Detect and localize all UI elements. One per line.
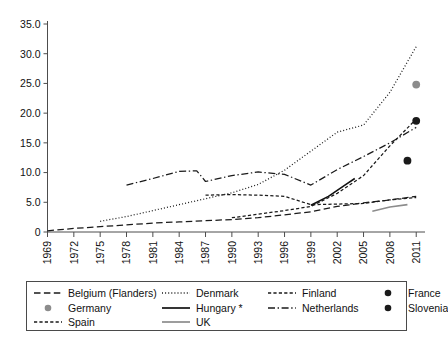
black-dot-marker-icon [373, 302, 403, 314]
legend-entry-france[interactable]: France [373, 286, 448, 301]
legend-entry-finland[interactable]: Finland [267, 286, 373, 301]
legend-label: UK [196, 316, 211, 328]
legend-label: Germany [68, 302, 111, 314]
solid-gray-line-icon [161, 316, 191, 328]
series-denmark [100, 47, 416, 222]
dash-dot-line-icon [267, 302, 297, 314]
short-dash-line-icon [33, 316, 63, 328]
data-point-marker [404, 157, 412, 165]
series-germany [412, 81, 420, 89]
x-tick-label: 1978 [120, 241, 132, 265]
legend-label: Slovenia [408, 302, 448, 314]
legend-label: Netherlands [302, 302, 359, 314]
y-axis: 05.010.015.020.025.030.035.0 [20, 18, 47, 238]
x-tick-label: 1999 [305, 241, 317, 265]
series-belgium-flanders [48, 196, 417, 230]
y-tick-label: 30.0 [20, 48, 41, 60]
x-tick-label: 1990 [226, 241, 238, 265]
series-hungary [311, 179, 355, 206]
data-point-marker [412, 81, 420, 89]
x-tick-label: 1972 [68, 241, 80, 265]
x-axis: 1969197219751978198119841987199019931996… [41, 232, 425, 264]
y-tick-label: 35.0 [20, 18, 41, 30]
y-tick-label: 20.0 [20, 107, 41, 119]
legend-label: Hungary * [196, 302, 243, 314]
legend-entry-slovenia[interactable]: Slovenia [373, 301, 448, 316]
legend-entry-germany[interactable]: Germany [33, 301, 161, 316]
series-spain [232, 119, 416, 218]
x-tick-label: 2005 [357, 241, 369, 265]
x-tick-label: 1993 [252, 241, 264, 265]
y-tick-label: 25.0 [20, 77, 41, 89]
legend-entry-hungary[interactable]: Hungary * [161, 301, 267, 316]
x-tick-label: 1996 [278, 241, 290, 265]
y-tick-label: 15.0 [20, 137, 41, 149]
series-uk [372, 205, 407, 212]
legend-entry-denmark[interactable]: Denmark [161, 286, 267, 301]
data-point-marker [412, 117, 420, 125]
data-series-group [48, 47, 421, 231]
legend-entry-uk[interactable]: UK [161, 315, 267, 330]
chart-legend: Belgium (Flanders)DenmarkFinlandFranceGe… [26, 281, 407, 331]
legend-label: Belgium (Flanders) [68, 287, 157, 299]
y-tick-label: 10.0 [20, 166, 41, 178]
legend-label: Denmark [196, 287, 239, 299]
gray-dot-marker-icon [33, 302, 63, 314]
y-tick-label: 0 [35, 226, 41, 238]
legend-label: France [408, 287, 441, 299]
series-slovenia [412, 117, 420, 125]
legend-label: Spain [68, 316, 95, 328]
long-dash-line-icon [33, 287, 63, 299]
x-tick-label: 2002 [331, 241, 343, 265]
solid-black-line-icon [161, 302, 191, 314]
legend-entry-belgium-flanders[interactable]: Belgium (Flanders) [33, 286, 161, 301]
series-finland [206, 195, 417, 205]
x-tick-label: 2011 [410, 241, 422, 264]
x-tick-label: 1987 [199, 241, 211, 265]
legend-entry-spain[interactable]: Spain [33, 315, 161, 330]
black-dot-marker-icon [373, 287, 403, 299]
x-tick-label: 1981 [147, 241, 159, 265]
x-tick-label: 2008 [384, 241, 396, 265]
y-tick-label: 5.0 [26, 196, 41, 208]
series-netherlands [127, 127, 417, 185]
legend-label: Finland [302, 287, 336, 299]
x-tick-label: 1969 [41, 241, 53, 265]
x-tick-label: 1975 [94, 241, 106, 265]
dotted-line-icon [161, 287, 191, 299]
short-dash-line-icon [267, 287, 297, 299]
legend-entry-netherlands[interactable]: Netherlands [267, 301, 373, 316]
series-france [404, 157, 412, 165]
x-tick-label: 1984 [173, 241, 185, 265]
